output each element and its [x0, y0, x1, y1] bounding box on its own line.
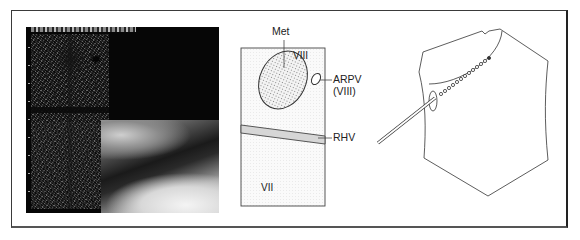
label-segment-vii: VII	[261, 182, 273, 193]
transhepatic-approach-illustration	[378, 29, 548, 196]
label-met: Met	[272, 26, 290, 37]
label-arpv: ARPV	[333, 74, 362, 85]
label-segment-viii: VIII	[293, 50, 308, 61]
label-rhv: RHV	[333, 132, 355, 143]
label-arpv-segment: (VIII)	[333, 86, 356, 97]
diagrams-canvas	[0, 0, 580, 240]
liver-segment-schematic	[241, 40, 332, 206]
liver-outline	[419, 29, 548, 196]
